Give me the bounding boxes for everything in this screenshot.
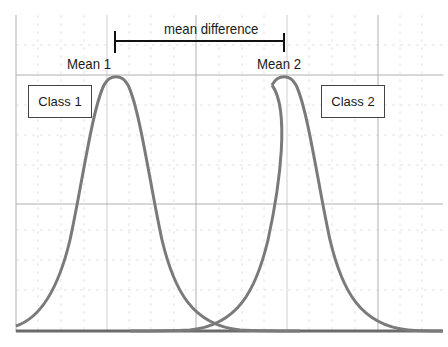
class1-box: Class 1: [28, 85, 92, 118]
class2-label: Class 2: [331, 94, 374, 109]
class1-label: Class 1: [38, 94, 81, 109]
class2-box: Class 2: [321, 85, 385, 118]
mean1-label: Mean 1: [67, 56, 111, 71]
mean2-label: Mean 2: [257, 56, 301, 71]
mean-difference-label: mean difference: [164, 21, 258, 36]
diagram-svg: [0, 0, 448, 347]
diagram-canvas: mean difference Mean 1 Mean 2 Class 1 Cl…: [0, 0, 448, 347]
